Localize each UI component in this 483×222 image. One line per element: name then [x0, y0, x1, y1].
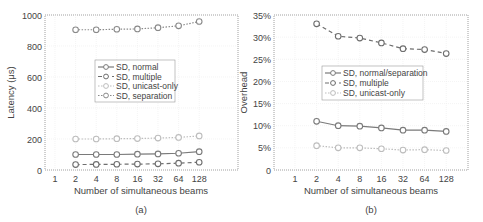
- y-tick-label: 400: [27, 104, 42, 114]
- x-axis-label: Number of simultaneous beams: [304, 185, 438, 196]
- legend-label: SD, multiple: [116, 72, 162, 82]
- x-tick-label: 64: [174, 174, 184, 184]
- data-point-marker: [93, 27, 99, 33]
- data-point-marker: [379, 125, 385, 131]
- y-tick-label: 1000: [22, 11, 42, 21]
- data-point-marker: [73, 162, 79, 168]
- y-tick-label: 800: [27, 42, 42, 52]
- data-point-marker: [155, 161, 161, 167]
- data-point-marker: [443, 129, 449, 135]
- data-point-marker: [196, 19, 202, 25]
- data-point-marker: [93, 162, 99, 168]
- x-tick-label: 8: [357, 174, 362, 184]
- x-tick-label: 32: [398, 174, 408, 184]
- data-point-marker: [73, 136, 79, 142]
- data-point-marker: [135, 136, 141, 142]
- x-tick-label: 4: [336, 174, 341, 184]
- data-point-marker: [135, 26, 141, 32]
- data-point-marker: [155, 135, 161, 141]
- data-point-marker: [93, 136, 99, 142]
- data-point-marker: [73, 27, 79, 33]
- data-point-marker: [357, 35, 363, 41]
- panel-label: (b): [365, 204, 377, 215]
- data-point-marker: [176, 150, 182, 156]
- data-point-marker: [196, 159, 202, 165]
- data-point-marker: [400, 46, 406, 52]
- data-point-marker: [422, 127, 428, 133]
- x-tick-label: 128: [192, 174, 207, 184]
- legend-label: SD, unicast-only: [343, 88, 406, 98]
- y-tick-label: 20%: [253, 77, 271, 87]
- y-tick-label: 0: [266, 166, 271, 176]
- legend-marker-icon: [331, 81, 336, 86]
- y-tick-label: 5%: [258, 143, 271, 153]
- x-tick-label: 2: [314, 174, 319, 184]
- y-tick-label: 15%: [253, 99, 271, 109]
- x-tick-label: 1: [292, 174, 297, 184]
- data-point-marker: [155, 25, 161, 31]
- data-point-marker: [314, 143, 320, 149]
- data-point-marker: [400, 147, 406, 153]
- data-point-marker: [196, 149, 202, 155]
- data-point-marker: [357, 145, 363, 151]
- x-tick-label: 16: [376, 174, 386, 184]
- data-point-marker: [379, 40, 385, 46]
- data-point-marker: [400, 127, 406, 133]
- data-point-marker: [114, 161, 120, 167]
- y-tick-label: 25%: [253, 55, 271, 65]
- data-point-marker: [335, 123, 341, 129]
- data-point-marker: [93, 152, 99, 158]
- legend-marker-icon: [331, 91, 336, 96]
- data-point-marker: [135, 151, 141, 157]
- data-point-marker: [114, 26, 120, 32]
- data-point-marker: [422, 147, 428, 153]
- data-point-marker: [176, 23, 182, 29]
- legend-label: SD, multiple: [343, 78, 389, 88]
- data-point-marker: [314, 118, 320, 124]
- x-tick-label: 2: [73, 174, 78, 184]
- data-point-marker: [379, 146, 385, 152]
- data-point-marker: [357, 123, 363, 129]
- x-tick-label: 1: [52, 174, 57, 184]
- data-point-marker: [314, 21, 320, 27]
- y-axis-label: Overhead: [238, 72, 249, 114]
- legend-marker-icon: [331, 71, 336, 76]
- data-point-marker: [422, 47, 428, 53]
- data-point-marker: [335, 145, 341, 151]
- panel-label: (a): [135, 204, 147, 215]
- data-point-marker: [443, 51, 449, 57]
- latency-chart: 124816326412802004006008001000Number of …: [5, 11, 238, 216]
- figure: 124816326412802004006008001000Number of …: [0, 0, 483, 222]
- legend-label: SD, separation: [116, 91, 172, 101]
- legend-label: SD, unicast-only: [116, 81, 179, 91]
- data-point-marker: [335, 33, 341, 39]
- data-point-marker: [114, 136, 120, 142]
- x-tick-label: 64: [420, 174, 430, 184]
- data-point-marker: [155, 151, 161, 157]
- y-tick-label: 0: [37, 166, 42, 176]
- y-tick-label: 200: [27, 135, 42, 145]
- x-tick-label: 16: [132, 174, 142, 184]
- y-tick-label: 10%: [253, 121, 271, 131]
- data-point-marker: [196, 133, 202, 139]
- x-tick-label: 32: [153, 174, 163, 184]
- legend-marker-icon: [104, 84, 109, 89]
- data-point-marker: [176, 135, 182, 141]
- legend-marker-icon: [104, 65, 109, 70]
- x-axis-label: Number of simultaneous beams: [74, 185, 208, 196]
- y-tick-label: 30%: [253, 33, 271, 43]
- legend-marker-icon: [104, 93, 109, 98]
- x-tick-label: 4: [94, 174, 99, 184]
- data-point-marker: [135, 161, 141, 167]
- data-point-marker: [73, 152, 79, 158]
- y-axis-label: Latency (μs): [5, 66, 16, 118]
- legend-label: SD, normal: [116, 62, 159, 72]
- legend-marker-icon: [104, 74, 109, 79]
- y-tick-label: 600: [27, 73, 42, 83]
- legend-label: SD, normal/separation: [343, 68, 428, 78]
- y-tick-label: 35%: [253, 11, 271, 21]
- x-tick-label: 8: [114, 174, 119, 184]
- data-point-marker: [443, 148, 449, 154]
- x-tick-label: 128: [439, 174, 454, 184]
- data-point-marker: [176, 160, 182, 166]
